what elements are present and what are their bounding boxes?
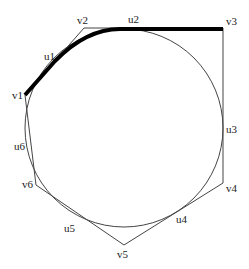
label-u1: u1 [44,50,55,62]
background [0,0,249,269]
label-u4: u4 [176,213,188,225]
label-v2: v2 [77,14,88,26]
hexagon-circle-diagram: v1v2v3v4v5v6u1u2u3u4u5u6 [0,0,249,269]
label-v6: v6 [22,178,34,190]
label-v4: v4 [226,182,238,194]
label-u3: u3 [226,123,238,135]
label-v5: v5 [117,248,129,260]
label-u5: u5 [64,222,76,234]
label-u6: u6 [14,140,26,152]
label-v1: v1 [12,89,23,101]
label-u2: u2 [128,13,139,25]
label-v3: v3 [226,15,238,27]
